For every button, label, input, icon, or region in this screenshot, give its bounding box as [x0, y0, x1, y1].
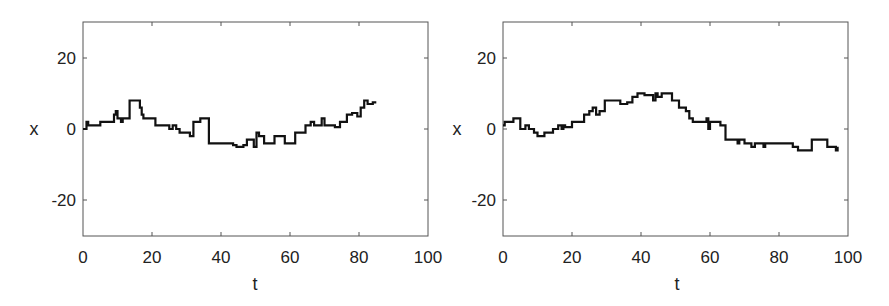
y-tick-labels: 20 0 -20	[471, 49, 496, 210]
y-tick-label: 0	[67, 120, 76, 139]
x-tick-label: 0	[78, 248, 87, 267]
y-tick-label: 0	[487, 120, 496, 139]
figure: 0 20 40 60 80 100 20 0 -20 t x 0	[0, 0, 889, 306]
x-tick-label: 60	[281, 248, 300, 267]
y-axis-label: x	[453, 119, 462, 139]
y-tick-label: 20	[57, 49, 76, 68]
x-tick-label: 40	[632, 248, 651, 267]
y-axis-label: x	[30, 119, 39, 139]
y-tick-labels: 20 0 -20	[51, 49, 76, 210]
x-tick-labels: 0 20 40 60 80 100	[78, 248, 442, 267]
x-tick-label: 80	[770, 248, 789, 267]
plot-area-frame	[83, 22, 428, 236]
x-tick-label: 60	[701, 248, 720, 267]
x-tick-label: 0	[498, 248, 507, 267]
x-tick-label: 100	[414, 248, 442, 267]
x-tick-labels: 0 20 40 60 80 100	[498, 248, 862, 267]
x-tick-label: 20	[563, 248, 582, 267]
x-axis-label: t	[674, 274, 679, 294]
right-chart-panel: 0 20 40 60 80 100 20 0 -20 t x	[453, 22, 863, 294]
left-chart-panel: 0 20 40 60 80 100 20 0 -20 t x	[30, 22, 443, 294]
x-tick-label: 80	[350, 248, 369, 267]
x-tick-label: 40	[212, 248, 231, 267]
x-tick-label: 20	[143, 248, 162, 267]
y-tick-label: 20	[477, 49, 496, 68]
y-tick-label: -20	[471, 191, 496, 210]
y-tick-label: -20	[51, 191, 76, 210]
x-axis-label: t	[252, 274, 257, 294]
x-tick-label: 100	[834, 248, 862, 267]
